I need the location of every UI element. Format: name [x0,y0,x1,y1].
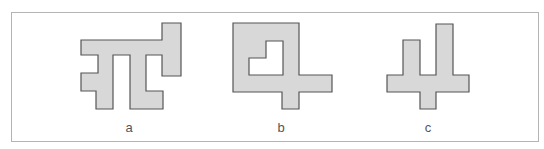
shape-c [387,24,469,109]
label-c: c [418,120,438,135]
shape-a [81,23,181,109]
shape-a-polygon [81,23,181,109]
shape-b-polygon [233,23,332,109]
shape-b [233,23,332,109]
label-b: b [271,120,291,135]
shape-c-polygon [387,24,469,109]
label-a: a [119,120,139,135]
